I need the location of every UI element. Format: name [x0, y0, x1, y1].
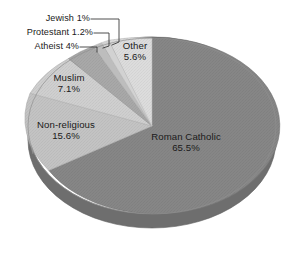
slice-label-other: Other 5.6%	[111, 41, 159, 62]
slice-label-roman-catholic: Roman Catholic 65.5%	[138, 132, 234, 153]
slice-label-non-religious: Non-religious 15.6%	[23, 120, 109, 141]
slice-label-muslim: Muslim 7.1%	[43, 73, 95, 94]
slice-label-roman-catholic-value: 65.5%	[138, 143, 234, 154]
slice-label-non-religious-value: 15.6%	[23, 131, 109, 142]
pie-chart: Jewish 1% Protestant 1.2% Atheist 4% Oth…	[0, 0, 286, 256]
slice-label-jewish: Jewish 1%	[14, 13, 90, 23]
slice-label-muslim-value: 7.1%	[43, 84, 95, 95]
slice-label-atheist-text: Atheist 4%	[8, 41, 79, 51]
slice-label-protestant: Protestant 1.2%	[4, 27, 93, 37]
slice-label-atheist: Atheist 4%	[8, 41, 79, 51]
slice-label-jewish-text: Jewish 1%	[14, 13, 90, 23]
slice-label-protestant-text: Protestant 1.2%	[4, 27, 93, 37]
slice-label-other-value: 5.6%	[111, 52, 159, 63]
